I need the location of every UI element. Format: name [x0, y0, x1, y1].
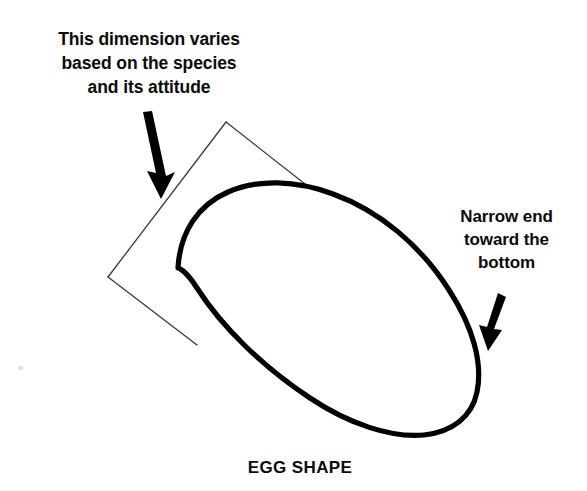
- right-arrow: [479, 293, 506, 351]
- dimension-tick-lower: [108, 277, 197, 345]
- right-arrow-shape: [479, 293, 506, 351]
- annotation-narrow-end: Narrow end toward the bottom: [440, 205, 573, 274]
- egg-shape-diagram: This dimension varies based on the speci…: [0, 0, 587, 491]
- scan-speck: [18, 366, 23, 370]
- egg-outline: [178, 183, 479, 436]
- left-arrow-shape: [143, 111, 175, 199]
- annotation-dimension-varies: This dimension varies based on the speci…: [20, 28, 278, 99]
- egg-outline-path: [178, 183, 479, 436]
- left-arrow: [143, 111, 175, 199]
- figure-caption: EGG SHAPE: [180, 458, 420, 478]
